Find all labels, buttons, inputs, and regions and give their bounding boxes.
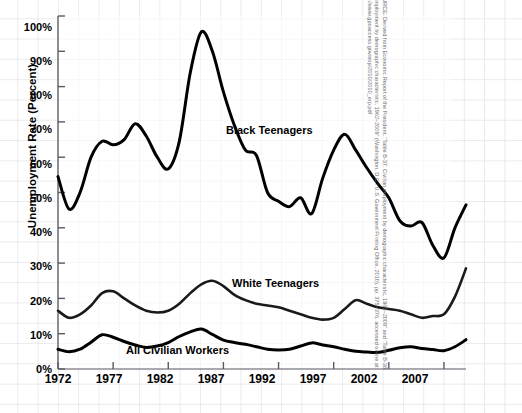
x-tick-1982: 1982 bbox=[132, 372, 188, 386]
x-tick-1997: 1997 bbox=[285, 372, 341, 386]
series-label-white-teenagers: White Teenagers bbox=[232, 277, 319, 289]
chart-series-layer bbox=[58, 31, 466, 352]
x-tick-2007: 2007 bbox=[387, 372, 443, 386]
series-line-all-civilian-workers bbox=[58, 329, 466, 352]
source-citation: SOURCE: Derived from Economic Report of … bbox=[365, 0, 388, 400]
series-line-black-teenagers bbox=[58, 31, 466, 258]
x-tick-1992: 1992 bbox=[234, 372, 290, 386]
series-label-all-civilian-workers: All Civilian Workers bbox=[126, 344, 229, 356]
x-tick-1972: 1972 bbox=[30, 372, 86, 386]
x-tick-1987: 1987 bbox=[183, 372, 239, 386]
series-label-black-teenagers: Black Teenagers bbox=[226, 124, 313, 136]
figure-container: Unemployment Rate (Percent) 100% 90% 80%… bbox=[0, 0, 522, 413]
x-tick-1977: 1977 bbox=[81, 372, 137, 386]
chart-plot bbox=[0, 0, 522, 413]
